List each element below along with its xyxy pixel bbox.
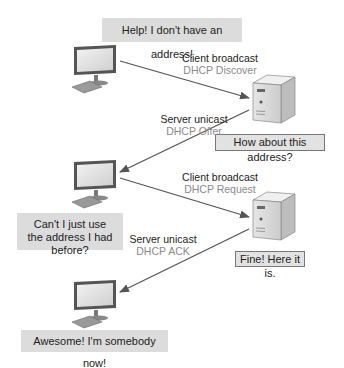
label-dhcp-offer: Server unicast DHCP Offer <box>144 113 244 137</box>
client-computer-icon <box>72 280 116 328</box>
server-message-2: Fine! Here it is. <box>235 251 305 267</box>
label-message: DHCP Discover <box>170 64 270 76</box>
label-dhcp-discover: Client broadcast DHCP Discover <box>170 52 270 76</box>
label-type: Server unicast <box>144 113 244 125</box>
server-icon <box>253 75 295 123</box>
label-type: Server unicast <box>113 233 213 245</box>
label-dhcp-ack: Server unicast DHCP ACK <box>113 233 213 257</box>
label-dhcp-request: Client broadcast DHCP Request <box>170 171 270 195</box>
client-computer-icon <box>72 160 116 208</box>
label-message: DHCP Request <box>170 183 270 195</box>
server-icon <box>253 192 295 240</box>
label-type: Client broadcast <box>170 171 270 183</box>
label-message: DHCP Offer <box>144 125 244 137</box>
client-message-2: Can't I just use the address I had befor… <box>17 213 123 250</box>
client-message-1: Help! I don't have an address! <box>102 18 242 42</box>
label-message: DHCP ACK <box>113 245 213 257</box>
client-message-3: Awesome! I'm somebody now! <box>21 330 168 352</box>
client-computer-icon <box>72 45 116 93</box>
label-type: Client broadcast <box>170 52 270 64</box>
